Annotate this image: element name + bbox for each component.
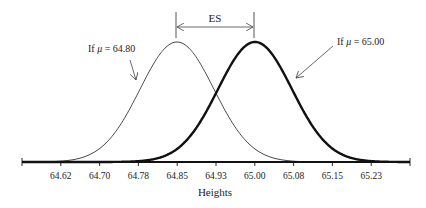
effect-size-annotation: ES xyxy=(176,12,254,38)
right-pointer-arrow-icon xyxy=(296,46,333,78)
normal-distributions-figure: 64.6264.7064.7864.8564.9365.0065.0865.15… xyxy=(0,0,426,208)
x-tick-label: 65.00 xyxy=(244,171,266,181)
left-curve-annotation: If μ = 64.80 xyxy=(88,43,136,80)
x-tick-label: 65.15 xyxy=(322,171,344,181)
x-tick-label: 64.93 xyxy=(205,171,227,181)
x-axis-tick-labels: 64.6264.7064.7864.8564.9365.0065.0865.15… xyxy=(50,171,382,181)
x-tick-label: 65.23 xyxy=(361,171,383,181)
es-label: ES xyxy=(209,12,222,24)
x-axis: 64.6264.7064.7864.8564.9365.0065.0865.15… xyxy=(22,158,410,198)
x-tick-label: 64.78 xyxy=(128,171,150,181)
x-tick-label: 64.85 xyxy=(167,171,189,181)
x-tick-label: 64.62 xyxy=(50,171,72,181)
left-pointer-arrow-icon xyxy=(130,60,136,80)
right-curve-annotation: If μ = 65.00 xyxy=(296,36,384,78)
x-tick-label: 64.70 xyxy=(89,171,111,181)
x-tick-label: 65.08 xyxy=(283,171,305,181)
x-axis-title: Heights xyxy=(198,186,232,198)
distribution-curve-mu-64-80 xyxy=(22,42,410,162)
left-curve-label: If μ = 64.80 xyxy=(88,43,135,54)
right-curve-label: If μ = 65.00 xyxy=(337,36,384,47)
distribution-curve-mu-65-00 xyxy=(22,42,410,162)
